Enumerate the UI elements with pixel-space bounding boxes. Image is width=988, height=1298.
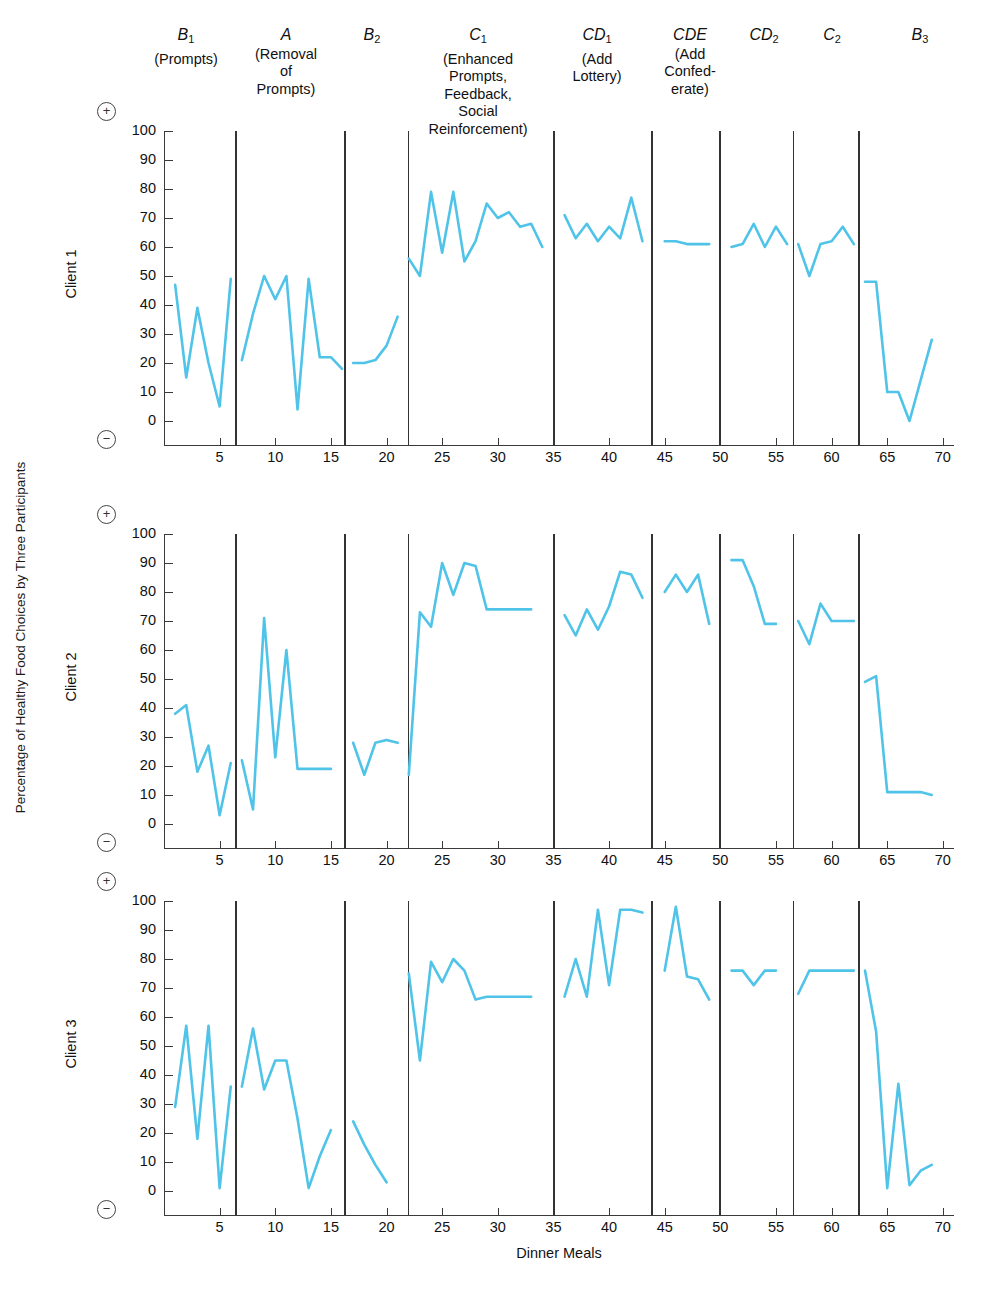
- x-tick-label: 70: [923, 1219, 963, 1235]
- x-tick-label: 45: [645, 852, 685, 868]
- plus-circle-icon: +: [97, 102, 116, 121]
- y-tick-label: 100: [112, 892, 156, 908]
- x-tick-label: 10: [255, 449, 295, 465]
- x-tick-label: 25: [422, 1219, 462, 1235]
- y-tick-label: 0: [112, 815, 156, 831]
- phase-code-subscript: 2: [835, 33, 841, 45]
- x-tick-label: 50: [700, 852, 740, 868]
- x-tick-label: 45: [645, 1219, 685, 1235]
- phase-description-line: Prompts,: [398, 68, 558, 86]
- phase-code: C2: [792, 26, 872, 49]
- x-tick-label: 35: [533, 449, 573, 465]
- x-tick-label: 60: [812, 852, 852, 868]
- phase-description-line: (Enhanced: [398, 51, 558, 69]
- x-tick-label: 25: [422, 852, 462, 868]
- minus-circle-icon: −: [97, 430, 116, 449]
- data-series-3: [164, 901, 954, 1215]
- series-segment-cd2: [731, 224, 787, 247]
- phase-code: B3: [880, 26, 960, 49]
- x-tick-label: 30: [478, 1219, 518, 1235]
- y-tick-label: 30: [112, 325, 156, 341]
- x-tick-label: 15: [311, 852, 351, 868]
- phase-description-line: (Add: [646, 46, 734, 64]
- series-segment-c2: [798, 227, 854, 276]
- phase-code: CD1: [549, 26, 645, 49]
- x-tick-label: 30: [478, 449, 518, 465]
- phase-code: CDE: [646, 26, 734, 44]
- x-tick-label: 15: [311, 449, 351, 465]
- series-segment-b1: [175, 1026, 231, 1188]
- data-series-2: [164, 534, 954, 848]
- phase-code: C1: [398, 26, 558, 49]
- series-segment-c1: [409, 192, 543, 276]
- phase-description-line: (Add: [549, 51, 645, 69]
- series-segment-cd2: [731, 971, 776, 986]
- series-segment-cde: [665, 241, 710, 244]
- x-tick-label: 15: [311, 1219, 351, 1235]
- series-segment-a: [242, 1029, 331, 1189]
- x-tick-label: 5: [200, 1219, 240, 1235]
- series-segment-cd1: [565, 910, 643, 997]
- phase-description-line: erate): [646, 81, 734, 99]
- x-tick-label: 65: [867, 852, 907, 868]
- phase-code-subscript: 3: [922, 33, 928, 45]
- phase-label-c2: C2: [792, 26, 872, 51]
- phase-description-line: (Removal: [226, 46, 346, 64]
- series-segment-b2: [353, 317, 398, 363]
- x-tick-label: 35: [533, 1219, 573, 1235]
- client-panel-3: +−Client 3010203040506070809010051015202…: [0, 901, 988, 1251]
- x-axis-spine: [164, 848, 954, 849]
- client-panel-1: +−Client 1010203040506070809010051015202…: [0, 131, 988, 481]
- y-tick-label: 40: [112, 699, 156, 715]
- x-tick-label: 5: [200, 852, 240, 868]
- phase-label-cd1: CD1(AddLottery): [549, 26, 645, 86]
- y-tick-label: 50: [112, 267, 156, 283]
- y-tick-label: 20: [112, 354, 156, 370]
- plus-circle-icon: +: [97, 872, 116, 891]
- y-tick-label: 0: [112, 412, 156, 428]
- y-tick-label: 60: [112, 641, 156, 657]
- y-tick-label: 40: [112, 296, 156, 312]
- phase-description-line: Prompts): [226, 81, 346, 99]
- minus-circle-icon: −: [97, 1200, 116, 1219]
- x-tick-label: 60: [812, 449, 852, 465]
- series-segment-b1: [175, 279, 231, 407]
- series-segment-cde: [665, 907, 710, 1000]
- y-tick-label: 10: [112, 383, 156, 399]
- y-tick-label: 10: [112, 786, 156, 802]
- plot-area: 0102030405060708090100510152025303540455…: [164, 901, 954, 1231]
- y-tick-label: 90: [112, 921, 156, 937]
- phase-label-cde: CDE(AddConfed-erate): [646, 26, 734, 98]
- series-segment-b3: [865, 282, 932, 421]
- x-tick-label: 10: [255, 1219, 295, 1235]
- series-segment-b1: [175, 705, 231, 815]
- phase-label-c1: C1(EnhancedPrompts,Feedback,SocialReinfo…: [398, 26, 558, 138]
- client-axis-label: Client 3: [63, 1019, 79, 1068]
- client-axis-label: Client 2: [63, 652, 79, 701]
- y-tick-label: 80: [112, 950, 156, 966]
- phase-description-line: Social: [398, 103, 558, 121]
- y-tick-label: 60: [112, 238, 156, 254]
- x-tick-label: 55: [756, 1219, 796, 1235]
- x-tick-label: 20: [367, 1219, 407, 1235]
- y-tick-label: 50: [112, 1037, 156, 1053]
- y-tick-label: 90: [112, 554, 156, 570]
- series-segment-cd1: [565, 572, 643, 636]
- series-segment-b3: [865, 971, 932, 1189]
- y-tick-label: 100: [112, 525, 156, 541]
- y-tick-label: 70: [112, 979, 156, 995]
- x-tick-label: 20: [367, 852, 407, 868]
- y-tick-label: 80: [112, 583, 156, 599]
- x-axis-spine: [164, 445, 954, 446]
- y-tick-label: 10: [112, 1153, 156, 1169]
- y-tick-label: 20: [112, 757, 156, 773]
- x-tick-label: 45: [645, 449, 685, 465]
- x-tick-label: 20: [367, 449, 407, 465]
- series-segment-c2: [798, 604, 854, 645]
- phase-code-subscript: 1: [605, 33, 611, 45]
- phase-code-subscript: 2: [772, 33, 778, 45]
- y-tick-label: 70: [112, 209, 156, 225]
- x-tick-label: 50: [700, 1219, 740, 1235]
- x-tick-label: 55: [756, 449, 796, 465]
- phase-code-subscript: 1: [188, 33, 194, 45]
